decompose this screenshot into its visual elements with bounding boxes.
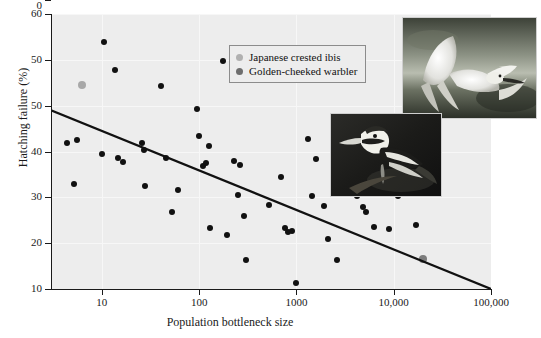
legend-label-ibis: Japanese crested ibis bbox=[249, 51, 341, 63]
data-point bbox=[386, 226, 392, 232]
data-point bbox=[224, 232, 230, 238]
legend: Japanese crested ibis Golden-cheeked war… bbox=[229, 45, 366, 83]
x-axis-tick bbox=[296, 290, 297, 295]
y-axis-tick bbox=[45, 106, 51, 107]
x-axis-tick-label: 10 bbox=[96, 297, 107, 308]
warbler-photo bbox=[330, 113, 442, 197]
y-axis-title: Hatching failure (%) bbox=[16, 43, 31, 193]
data-point bbox=[207, 225, 213, 231]
data-point bbox=[237, 162, 243, 168]
data-point bbox=[196, 133, 202, 139]
data-point bbox=[142, 183, 148, 189]
gridline-horizontal bbox=[51, 243, 491, 244]
x-axis-tick bbox=[394, 290, 395, 295]
x-axis-line bbox=[51, 289, 492, 290]
legend-item-warbler: Golden-cheeked warbler bbox=[236, 64, 357, 78]
data-point bbox=[64, 140, 70, 146]
data-point bbox=[278, 174, 284, 180]
data-point bbox=[139, 140, 145, 146]
data-point bbox=[325, 236, 331, 242]
data-point bbox=[413, 222, 419, 228]
data-point bbox=[289, 228, 295, 234]
y-axis-tick-label: 0 bbox=[0, 0, 42, 11]
data-point bbox=[293, 280, 299, 286]
legend-label-warbler: Golden-cheeked warbler bbox=[249, 65, 357, 77]
data-point bbox=[71, 181, 77, 187]
y-axis-tick bbox=[45, 0, 51, 1]
data-point bbox=[101, 39, 107, 45]
data-point bbox=[334, 257, 340, 263]
legend-marker-ibis bbox=[236, 54, 243, 61]
data-point bbox=[231, 158, 237, 164]
data-point bbox=[309, 193, 315, 199]
data-point bbox=[141, 147, 147, 153]
legend-marker-warbler bbox=[236, 68, 243, 75]
legend-item-ibis: Japanese crested ibis bbox=[236, 50, 357, 64]
y-axis-tick-label: 10 bbox=[0, 283, 42, 294]
data-point bbox=[120, 159, 126, 165]
data-point bbox=[220, 58, 226, 64]
data-point bbox=[163, 155, 169, 161]
x-axis-tick-label: 10,000 bbox=[379, 297, 409, 308]
data-point bbox=[194, 106, 200, 112]
y-axis-tick bbox=[45, 60, 51, 61]
data-point bbox=[112, 67, 118, 73]
gridline-vertical bbox=[199, 14, 200, 289]
data-point bbox=[266, 202, 272, 208]
y-axis-tick-label: 20 bbox=[0, 237, 42, 248]
y-axis-tick bbox=[45, 14, 51, 15]
data-point bbox=[74, 137, 80, 143]
data-point bbox=[305, 136, 311, 142]
data-point bbox=[241, 213, 247, 219]
gridline-horizontal bbox=[51, 197, 491, 198]
data-point bbox=[313, 156, 319, 162]
data-point bbox=[321, 203, 327, 209]
data-point bbox=[175, 187, 181, 193]
data-point bbox=[203, 160, 209, 166]
x-axis-tick bbox=[102, 290, 103, 295]
data-point bbox=[235, 192, 241, 198]
data-point bbox=[158, 83, 164, 89]
data-point bbox=[78, 81, 86, 89]
data-point bbox=[243, 257, 249, 263]
y-axis-line bbox=[51, 14, 52, 290]
y-axis-tick bbox=[45, 152, 51, 153]
data-point bbox=[206, 143, 212, 149]
x-axis-tick-label: 100,000 bbox=[473, 297, 509, 308]
x-axis-tick-label: 1000 bbox=[285, 297, 307, 308]
x-axis-title: Population bottleneck size bbox=[0, 315, 460, 330]
x-axis-tick bbox=[199, 290, 200, 295]
x-axis-tick-label: 100 bbox=[191, 297, 208, 308]
data-point bbox=[363, 209, 369, 215]
gridline-horizontal bbox=[51, 14, 491, 15]
y-axis-tick bbox=[45, 197, 51, 198]
y-axis-tick bbox=[45, 289, 51, 290]
data-point bbox=[371, 224, 377, 230]
data-point bbox=[419, 255, 427, 263]
data-point bbox=[99, 151, 105, 157]
y-axis-tick-label: 30 bbox=[0, 191, 42, 202]
figure-container: 605050403020100 10100100010,000100,000 P… bbox=[0, 0, 541, 338]
x-axis-tick bbox=[491, 290, 492, 295]
data-point bbox=[169, 209, 175, 215]
ibis-photo bbox=[402, 17, 537, 119]
y-axis-tick bbox=[45, 243, 51, 244]
